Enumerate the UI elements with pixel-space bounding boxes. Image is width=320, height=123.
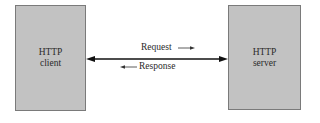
request-arrow-right-icon xyxy=(178,46,195,49)
request-label: Request xyxy=(141,42,172,53)
response-label: Response xyxy=(139,61,175,72)
response-arrow-left-icon xyxy=(120,65,137,68)
